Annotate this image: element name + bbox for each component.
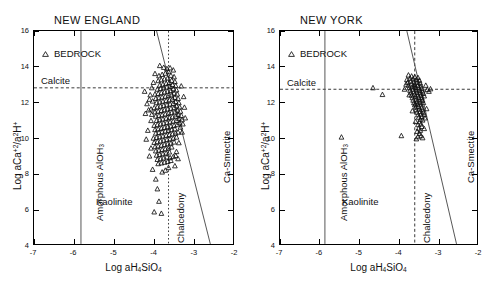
legend-label-bedrock: BEDROCK: [54, 48, 101, 59]
x-tick-label: -3: [190, 248, 197, 257]
y-axis-title-right: Log aCa+2/a2H+: [260, 121, 271, 189]
y-tick-label: 4: [15, 241, 29, 250]
y-tick: [472, 210, 477, 211]
data-point-marker: [151, 136, 156, 140]
label-kaolinite: Kaolinite: [342, 196, 378, 207]
y-tick: [280, 174, 285, 175]
data-point-marker: [404, 82, 409, 86]
y-tick-label: 12: [15, 97, 29, 106]
label-ca-smectite: Ca-Smectite: [465, 131, 476, 183]
data-point-marker: [144, 137, 149, 141]
data-point-marker: [399, 133, 404, 137]
x-tick: [74, 31, 75, 36]
x-tick: [319, 31, 320, 36]
data-point-marker: [155, 186, 160, 190]
data-point-marker: [176, 156, 181, 160]
x-tick: [114, 31, 115, 36]
data-point-marker: [380, 92, 385, 96]
x-tick: [154, 31, 155, 36]
data-point-marker: [149, 146, 154, 150]
data-point-marker: [147, 154, 152, 158]
y-tick: [280, 102, 285, 103]
data-point-marker: [151, 80, 156, 84]
label-calcite: Calcite: [287, 77, 316, 88]
y-tick-label: 16: [15, 26, 29, 35]
data-point-marker: [153, 144, 158, 148]
triangle-marker-icon: [288, 51, 295, 57]
data-point-marker: [147, 97, 152, 101]
x-tick-label: -6: [70, 248, 77, 257]
y-tick: [280, 66, 285, 67]
legend-label-bedrock: BEDROCK: [300, 48, 347, 59]
y-tick-label: 12: [261, 97, 275, 106]
data-point-marker: [153, 96, 158, 100]
panel-new-england: NEW ENGLAND CalciteAmorphous AlOH3Kaolin…: [0, 0, 247, 287]
data-point-marker: [181, 94, 186, 98]
data-point-marker: [157, 83, 162, 87]
y-tick: [34, 66, 39, 67]
data-point-marker: [153, 92, 158, 96]
x-tick-label: -5: [110, 248, 117, 257]
y-tick: [34, 174, 39, 175]
panel-title-new-york: NEW YORK: [300, 14, 363, 26]
y-tick-label: 6: [261, 205, 275, 214]
data-point-marker: [179, 84, 184, 88]
data-point-marker: [152, 123, 157, 127]
x-tick: [114, 239, 115, 244]
x-tick: [399, 239, 400, 244]
data-point-marker: [153, 149, 158, 153]
data-point-marker: [152, 210, 157, 214]
data-point-marker: [142, 89, 147, 93]
panel-new-york: NEW YORK CalciteAmorphous AlOH3Kaolinite…: [248, 0, 495, 287]
y-tick: [228, 102, 233, 103]
data-point-marker: [153, 109, 158, 113]
x-tick: [34, 239, 35, 244]
data-point-marker: [156, 161, 161, 165]
data-point-marker: [174, 149, 179, 153]
x-tick: [359, 239, 360, 244]
y-tick: [34, 31, 39, 32]
y-tick: [228, 210, 233, 211]
y-tick-label: 14: [15, 61, 29, 70]
x-tick-label: -2: [231, 248, 238, 257]
x-axis-title-right: Log aH4SiO4: [350, 262, 406, 273]
data-point-marker: [159, 211, 164, 215]
x-tick-label: -4: [150, 248, 157, 257]
data-point-marker: [153, 127, 158, 131]
y-tick: [472, 102, 477, 103]
page-artifact-strip: [0, 277, 495, 287]
data-point-marker: [173, 163, 178, 167]
y-tick: [280, 210, 285, 211]
plot-inner-new-york: CalciteAmorphous AlOH3KaoliniteChalcedon…: [280, 31, 477, 244]
x-tick: [280, 239, 281, 244]
data-point-marker: [152, 140, 157, 144]
data-point-marker: [157, 199, 162, 203]
data-point-marker: [149, 118, 154, 122]
y-tick-label: 8: [15, 169, 29, 178]
plot-area-new-england: CalciteAmorphous AlOH3KaoliniteChalcedon…: [33, 30, 234, 245]
triangle-marker-icon: [42, 51, 49, 57]
y-tick: [34, 138, 39, 139]
activity-diagram-figure: NEW ENGLAND CalciteAmorphous AlOH3Kaolin…: [0, 0, 495, 287]
x-axis-title-left: Log aH4SiO4: [105, 262, 161, 273]
x-tick: [319, 239, 320, 244]
data-point-marker: [145, 101, 150, 105]
label-kaolinite: Kaolinite: [96, 196, 132, 207]
x-tick: [359, 31, 360, 36]
data-point-marker: [153, 71, 158, 75]
label-ca-smectite: Ca-Smectite: [221, 131, 232, 183]
x-tick: [74, 239, 75, 244]
x-tick-label: -5: [355, 248, 362, 257]
y-tick: [280, 31, 285, 32]
data-point-marker: [150, 167, 155, 171]
y-tick-label: 6: [15, 205, 29, 214]
data-point-marker: [157, 63, 162, 67]
panel-title-new-england: NEW ENGLAND: [54, 14, 140, 26]
data-point-marker: [145, 128, 150, 132]
label-chalcedony: Chalcedony: [175, 193, 186, 243]
data-point-marker: [339, 135, 344, 139]
x-tick-label: -3: [435, 248, 442, 257]
x-tick: [194, 239, 195, 244]
data-point-marker: [154, 118, 159, 122]
y-tick: [228, 31, 233, 32]
